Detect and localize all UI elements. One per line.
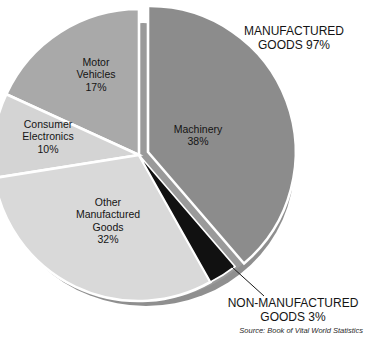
- slice-label-motor-vehicles-value: 17%: [58, 81, 134, 93]
- slice-label-consumer-electronics-line2: Electronics: [2, 130, 94, 142]
- group-label-manufactured-goods-line1: MANUFACTURED: [228, 24, 360, 38]
- slice-label-other-manufactured-line3: Goods: [60, 221, 156, 233]
- group-label-non-manufactured-goods-line2: GOODS 3%: [222, 310, 364, 324]
- slice-label-other-manufactured-goods: Other Manufactured Goods 32%: [60, 196, 156, 246]
- slice-label-consumer-electronics-line1: Consumer: [2, 118, 94, 130]
- slice-label-other-manufactured-line2: Manufactured: [60, 208, 156, 220]
- source-note: Source: Book of Vital World Statistics: [213, 326, 363, 335]
- slice-label-machinery-line1: Machinery: [155, 123, 241, 135]
- slice-label-motor-vehicles-line2: Vehicles: [58, 68, 134, 80]
- group-label-non-manufactured-goods: NON-MANUFACTURED GOODS 3%: [222, 296, 364, 324]
- pie-chart: Motor Vehicles 17% Consumer Electronics …: [0, 0, 367, 340]
- slice-label-other-manufactured-value: 32%: [60, 233, 156, 245]
- slice-label-motor-vehicles-line1: Motor: [58, 56, 134, 68]
- group-label-manufactured-goods: MANUFACTURED GOODS 97%: [228, 24, 360, 52]
- slice-label-consumer-electronics-value: 10%: [2, 143, 94, 155]
- slice-label-consumer-electronics: Consumer Electronics 10%: [2, 118, 94, 155]
- callout-leader-line: [232, 267, 264, 296]
- slice-label-machinery-value: 38%: [155, 135, 241, 147]
- slice-label-other-manufactured-line1: Other: [60, 196, 156, 208]
- slice-label-machinery: Machinery 38%: [155, 123, 241, 148]
- slice-label-motor-vehicles: Motor Vehicles 17%: [58, 56, 134, 93]
- group-label-manufactured-goods-line2: GOODS 97%: [228, 38, 360, 52]
- group-label-non-manufactured-goods-line1: NON-MANUFACTURED: [222, 296, 364, 310]
